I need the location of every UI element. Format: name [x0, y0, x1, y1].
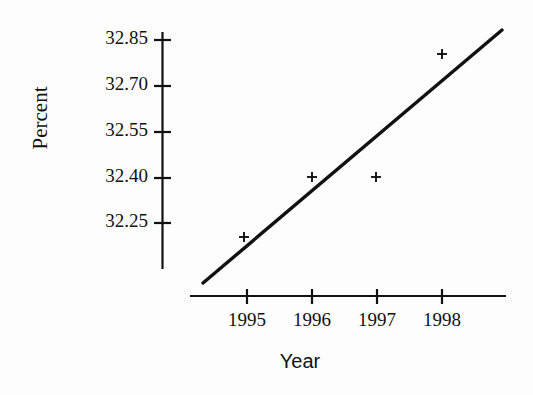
- y-tick-label-3: 32.40: [105, 165, 148, 186]
- chart-figure: 32.85 32.70 32.55 32.40 32.25 1995 1996 …: [0, 0, 533, 395]
- data-point-1996: [307, 172, 317, 182]
- y-tick-label-4: 32.25: [105, 210, 148, 231]
- x-tick-label-2: 1997: [358, 309, 396, 330]
- x-tick-label-3: 1998: [423, 309, 461, 330]
- x-tick-label-1: 1996: [293, 309, 331, 330]
- scatter-plot: 32.85 32.70 32.55 32.40 32.25 1995 1996 …: [0, 0, 533, 395]
- data-point-1995: [239, 232, 249, 242]
- data-point-1997: [371, 172, 381, 182]
- x-tick-label-0: 1995: [228, 309, 266, 330]
- y-tick-label-0: 32.85: [105, 27, 148, 48]
- trend-line: [203, 30, 502, 283]
- y-axis-title: Percent: [28, 86, 52, 149]
- y-tick-label-2: 32.55: [105, 119, 148, 140]
- x-axis-title: Year: [280, 350, 321, 372]
- data-point-1998: [437, 49, 447, 59]
- y-tick-label-1: 32.70: [105, 73, 148, 94]
